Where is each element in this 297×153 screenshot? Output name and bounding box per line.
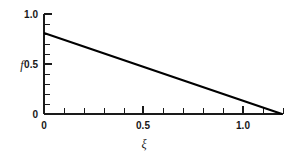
y-tick-label-middle: 0.5 [24,59,38,70]
x-tick-label-middle: 0.5 [136,120,150,131]
y-tick-label-bottom: 0 [32,109,38,120]
x-axis-title: ξ [141,137,147,151]
x-tick-label-right: 1.0 [236,120,250,131]
y-tick-label-top: 1.0 [24,9,38,20]
line-chart-plot: 1.0 0.5 0 0 0.5 1.0 f ξ [0,0,297,153]
x-tick-label-left: 0 [41,120,47,131]
chart-figure: 1.0 0.5 0 0 0.5 1.0 f ξ [0,0,297,153]
